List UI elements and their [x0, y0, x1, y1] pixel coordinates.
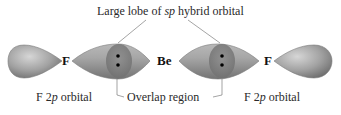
atom-f-left: F	[62, 54, 70, 67]
electron-dot	[220, 63, 224, 67]
overlap-bracket-left	[117, 79, 124, 97]
label-text: orbital	[266, 90, 300, 104]
label-text: Large lobe of	[97, 4, 164, 18]
electron-dot	[116, 54, 120, 58]
label-text: F 2	[36, 90, 52, 104]
right-f-2p-lobe	[274, 45, 332, 78]
overlap-region-label: Overlap region	[127, 91, 199, 103]
label-text: hybrid orbital	[175, 4, 244, 18]
electron-dot	[116, 63, 120, 67]
atom-be: Be	[157, 54, 171, 67]
atom-f-right: F	[264, 54, 272, 67]
left-overlap-region	[106, 44, 132, 78]
overlap-bracket-right	[213, 79, 222, 97]
label-italic: sp	[164, 4, 175, 18]
electron-dot	[220, 54, 224, 58]
label-text: F 2	[244, 90, 260, 104]
leader-line-left	[118, 20, 146, 43]
right-f-2p-orbital-label: F 2p orbital	[244, 91, 300, 103]
leader-line-right	[188, 20, 220, 43]
right-overlap-region	[209, 44, 235, 78]
bef2-orbital-diagram: Large lobe of sp hybrid orbital F Be F F…	[0, 0, 341, 115]
sp-hybrid-lobe-label: Large lobe of sp hybrid orbital	[97, 5, 244, 17]
left-f-2p-lobe	[8, 45, 62, 78]
left-f-2p-orbital-label: F 2p orbital	[36, 91, 92, 103]
label-text: orbital	[58, 90, 92, 104]
